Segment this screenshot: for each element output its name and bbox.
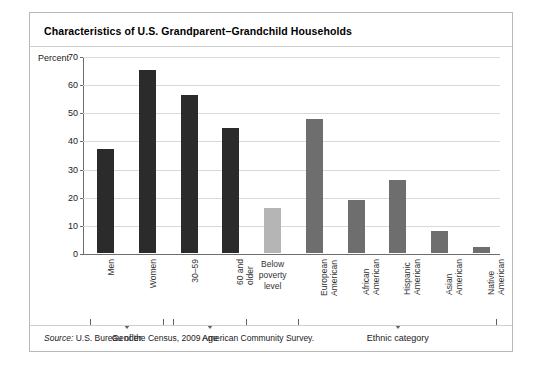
x-axis-tick-label: AsianAmerican bbox=[445, 259, 464, 295]
x-axis-tick-label: EuropeanAmerican bbox=[320, 259, 339, 296]
source-divider bbox=[30, 325, 512, 326]
y-axis-tick-mark bbox=[80, 198, 83, 199]
source-note: Source: U.S. Bureau of the Census, 2009 … bbox=[44, 333, 314, 343]
y-axis-tick-label: 0 bbox=[73, 249, 78, 259]
y-axis-tick-mark bbox=[80, 113, 83, 114]
gridline bbox=[83, 57, 500, 58]
y-axis-title: Percent bbox=[38, 53, 69, 63]
y-axis-tick-label: 40 bbox=[68, 136, 78, 146]
y-axis-tick-mark bbox=[80, 226, 83, 227]
source-label: Source: bbox=[44, 333, 73, 343]
page-title: Characteristics of U.S. Grandparent–Gran… bbox=[44, 25, 352, 37]
bar bbox=[389, 180, 406, 253]
y-axis-tick-mark bbox=[80, 254, 83, 255]
y-axis-tick-label: 30 bbox=[68, 165, 78, 175]
title-divider bbox=[30, 46, 512, 47]
x-axis-tick-label: AfricanAmerican bbox=[362, 259, 381, 295]
figure-panel: Characteristics of U.S. Grandparent–Gran… bbox=[29, 12, 513, 352]
y-axis-tick-mark bbox=[80, 57, 83, 58]
group-label: Ethnic category bbox=[367, 333, 429, 343]
x-axis-tick-label: Women bbox=[149, 259, 159, 288]
x-axis-line bbox=[83, 254, 500, 255]
bar bbox=[306, 119, 323, 253]
y-axis-tick-label: 20 bbox=[68, 193, 78, 203]
y-axis-tick-label: 60 bbox=[68, 80, 78, 90]
bar bbox=[473, 247, 490, 253]
bar bbox=[431, 231, 448, 254]
bar bbox=[181, 95, 198, 253]
bar bbox=[139, 70, 156, 253]
source-text: U.S. Bureau of the Census, 2009 American… bbox=[73, 333, 314, 343]
x-axis-tick-label: HispanicAmerican bbox=[403, 259, 422, 295]
bar bbox=[97, 149, 114, 253]
x-axis-tick-label: Men bbox=[107, 259, 117, 276]
bar bbox=[348, 200, 365, 253]
y-axis-tick-label: 70 bbox=[68, 52, 78, 62]
y-axis-tick-label: 10 bbox=[68, 221, 78, 231]
bar bbox=[222, 128, 239, 253]
y-axis-tick-mark bbox=[80, 85, 83, 86]
x-axis-tick-label: 30–59 bbox=[191, 259, 201, 283]
bar bbox=[264, 208, 281, 253]
x-axis-tick-label: 60 andolder bbox=[236, 259, 255, 285]
plot-area: 010203040506070 MenWomen30–5960 andolder… bbox=[83, 57, 500, 254]
x-axis-tick-label: Belowpovertylevel bbox=[259, 259, 287, 292]
y-axis-tick-mark bbox=[80, 141, 83, 142]
x-axis-tick-label: NativeAmerican bbox=[487, 259, 506, 295]
y-axis-tick-label: 50 bbox=[68, 108, 78, 118]
y-axis-tick-mark bbox=[80, 170, 83, 171]
